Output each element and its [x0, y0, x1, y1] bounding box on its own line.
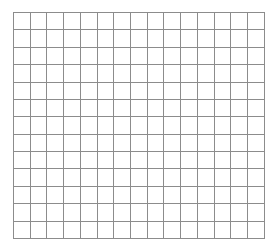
grid-cell[interactable]: [131, 65, 148, 82]
grid-cell[interactable]: [30, 30, 47, 47]
grid-cell[interactable]: [64, 65, 81, 82]
grid-cell[interactable]: [30, 204, 47, 221]
grid-cell[interactable]: [181, 117, 198, 134]
grid-cell[interactable]: [14, 82, 31, 99]
grid-cell[interactable]: [30, 47, 47, 64]
grid-cell[interactable]: [47, 99, 64, 116]
grid-cell[interactable]: [181, 186, 198, 203]
grid-cell[interactable]: [248, 186, 265, 203]
grid-cell[interactable]: [164, 134, 181, 151]
grid-cell[interactable]: [47, 117, 64, 134]
grid-cell[interactable]: [64, 152, 81, 169]
grid-cell[interactable]: [131, 47, 148, 64]
grid-cell[interactable]: [114, 117, 131, 134]
grid-cell[interactable]: [114, 169, 131, 186]
grid-cell[interactable]: [47, 134, 64, 151]
grid-cell[interactable]: [97, 65, 114, 82]
grid-cell[interactable]: [147, 134, 164, 151]
grid-cell[interactable]: [231, 221, 248, 238]
grid-cell[interactable]: [147, 47, 164, 64]
grid-cell[interactable]: [30, 65, 47, 82]
grid-cell[interactable]: [164, 82, 181, 99]
grid-cell[interactable]: [197, 221, 214, 238]
grid-cell[interactable]: [248, 221, 265, 238]
grid-cell[interactable]: [97, 186, 114, 203]
grid-cell[interactable]: [214, 204, 231, 221]
grid-cell[interactable]: [131, 99, 148, 116]
grid-cell[interactable]: [197, 186, 214, 203]
grid-cell[interactable]: [214, 99, 231, 116]
grid-cell[interactable]: [181, 204, 198, 221]
grid-cell[interactable]: [197, 65, 214, 82]
grid-cell[interactable]: [14, 152, 31, 169]
grid-cell[interactable]: [97, 221, 114, 238]
grid-cell[interactable]: [80, 30, 97, 47]
grid-cell[interactable]: [114, 99, 131, 116]
grid-cell[interactable]: [181, 82, 198, 99]
empty-grid-table[interactable]: [13, 12, 265, 239]
grid-cell[interactable]: [181, 221, 198, 238]
grid-cell[interactable]: [248, 47, 265, 64]
grid-cell[interactable]: [114, 204, 131, 221]
grid-cell[interactable]: [214, 186, 231, 203]
grid-cell[interactable]: [97, 47, 114, 64]
grid-cell[interactable]: [14, 186, 31, 203]
grid-cell[interactable]: [97, 117, 114, 134]
grid-cell[interactable]: [114, 152, 131, 169]
grid-cell[interactable]: [114, 221, 131, 238]
grid-cell[interactable]: [248, 152, 265, 169]
grid-cell[interactable]: [114, 134, 131, 151]
grid-cell[interactable]: [164, 47, 181, 64]
grid-cell[interactable]: [197, 152, 214, 169]
grid-cell[interactable]: [131, 152, 148, 169]
grid-cell[interactable]: [248, 117, 265, 134]
grid-cell[interactable]: [114, 13, 131, 30]
grid-cell[interactable]: [30, 152, 47, 169]
grid-cell[interactable]: [231, 169, 248, 186]
grid-cell[interactable]: [64, 186, 81, 203]
grid-cell[interactable]: [97, 204, 114, 221]
grid-cell[interactable]: [47, 152, 64, 169]
grid-cell[interactable]: [14, 221, 31, 238]
grid-cell[interactable]: [147, 221, 164, 238]
grid-cell[interactable]: [248, 204, 265, 221]
grid-cell[interactable]: [214, 221, 231, 238]
grid-cell[interactable]: [231, 186, 248, 203]
grid-cell[interactable]: [30, 134, 47, 151]
grid-cell[interactable]: [197, 13, 214, 30]
grid-cell[interactable]: [64, 13, 81, 30]
grid-cell[interactable]: [114, 30, 131, 47]
grid-cell[interactable]: [14, 204, 31, 221]
grid-cell[interactable]: [14, 65, 31, 82]
grid-cell[interactable]: [231, 13, 248, 30]
grid-cell[interactable]: [131, 204, 148, 221]
grid-cell[interactable]: [214, 82, 231, 99]
grid-cell[interactable]: [231, 134, 248, 151]
grid-cell[interactable]: [181, 13, 198, 30]
grid-cell[interactable]: [248, 65, 265, 82]
grid-cell[interactable]: [97, 99, 114, 116]
grid-cell[interactable]: [30, 186, 47, 203]
grid-cell[interactable]: [214, 134, 231, 151]
grid-cell[interactable]: [164, 221, 181, 238]
grid-cell[interactable]: [197, 99, 214, 116]
grid-cell[interactable]: [64, 99, 81, 116]
grid-cell[interactable]: [214, 152, 231, 169]
grid-cell[interactable]: [181, 30, 198, 47]
grid-cell[interactable]: [131, 186, 148, 203]
grid-cell[interactable]: [80, 13, 97, 30]
grid-cell[interactable]: [181, 152, 198, 169]
grid-cell[interactable]: [131, 30, 148, 47]
grid-cell[interactable]: [47, 186, 64, 203]
grid-cell[interactable]: [14, 30, 31, 47]
grid-cell[interactable]: [147, 117, 164, 134]
grid-cell[interactable]: [214, 47, 231, 64]
grid-cell[interactable]: [214, 13, 231, 30]
grid-cell[interactable]: [164, 99, 181, 116]
grid-cell[interactable]: [64, 221, 81, 238]
grid-cell[interactable]: [80, 152, 97, 169]
grid-cell[interactable]: [64, 134, 81, 151]
grid-cell[interactable]: [114, 47, 131, 64]
grid-cell[interactable]: [30, 13, 47, 30]
grid-cell[interactable]: [231, 30, 248, 47]
